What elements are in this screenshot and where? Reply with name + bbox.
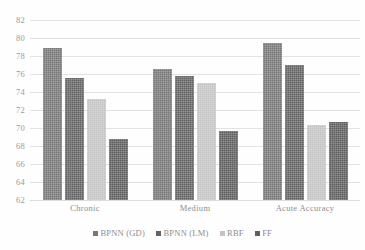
bar-group-bars xyxy=(140,20,250,200)
y-axis-tick-label: 74 xyxy=(16,88,25,97)
bar-group xyxy=(250,20,360,200)
x-axis-category-label: Chronic xyxy=(30,203,140,213)
bar xyxy=(307,125,326,200)
plot-area xyxy=(30,20,360,200)
legend-label: BPNN (GD) xyxy=(100,228,145,238)
bar-group-bars xyxy=(30,20,140,200)
legend-label: FF xyxy=(262,228,272,238)
bar xyxy=(65,78,84,200)
legend-swatch-icon xyxy=(93,231,98,236)
y-axis-tick-label: 62 xyxy=(16,196,25,205)
y-axis-tick-label: 80 xyxy=(16,34,25,43)
bar xyxy=(175,76,194,200)
legend-swatch-icon xyxy=(156,231,161,236)
legend-item[interactable]: FF xyxy=(255,228,272,238)
y-axis-tick-label: 72 xyxy=(16,106,25,115)
bar xyxy=(87,99,106,200)
y-axis-tick-label: 64 xyxy=(16,178,25,187)
y-axis-tick-label: 68 xyxy=(16,142,25,151)
y-axis-tick-label: 82 xyxy=(16,16,25,25)
y-axis-tick-labels: 8280787674727068666462 xyxy=(0,20,30,200)
y-axis-tick-label: 70 xyxy=(16,124,25,133)
legend-item[interactable]: BPNN (GD) xyxy=(93,228,145,238)
bar xyxy=(329,122,348,200)
x-axis-category-label: Medium xyxy=(140,203,250,213)
y-axis-tick-label: 66 xyxy=(16,160,25,169)
bar xyxy=(43,48,62,200)
x-axis-category-label: Acute Accuracy xyxy=(250,203,360,213)
bar-group xyxy=(140,20,250,200)
bar xyxy=(263,43,282,201)
bar-groups xyxy=(30,20,360,200)
legend-label: RBF xyxy=(227,228,244,238)
legend-swatch-icon xyxy=(220,231,225,236)
bar xyxy=(197,83,216,200)
y-axis-tick-label: 76 xyxy=(16,70,25,79)
y-axis-tick-label: 78 xyxy=(16,52,25,61)
bar-group xyxy=(30,20,140,200)
x-axis-category-labels: ChronicMediumAcute Accuracy xyxy=(30,203,360,213)
legend-item[interactable]: RBF xyxy=(220,228,244,238)
legend-label: BPNN (LM) xyxy=(164,228,209,238)
bar xyxy=(285,65,304,200)
legend-item[interactable]: BPNN (LM) xyxy=(156,228,209,238)
bar-group-bars xyxy=(250,20,360,200)
legend-swatch-icon xyxy=(255,231,260,236)
bar xyxy=(219,131,238,200)
bar-chart: 8280787674727068666462 ChronicMediumAcut… xyxy=(0,0,365,250)
bar xyxy=(109,139,128,200)
chart-legend: BPNN (GD)BPNN (LM)RBFFF xyxy=(0,228,365,238)
bar xyxy=(153,69,172,200)
gridline xyxy=(30,200,360,201)
